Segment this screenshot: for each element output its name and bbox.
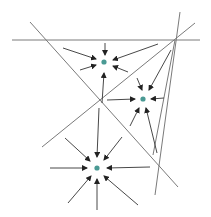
arrow-icon — [97, 108, 99, 157]
diagram-svg — [0, 0, 211, 217]
arrow-icon — [80, 65, 96, 70]
partition-line-1 — [30, 22, 178, 187]
arrow-icon — [68, 176, 91, 203]
arrow-icon — [107, 99, 135, 100]
arrows-group — [50, 43, 171, 210]
partition-line-3 — [155, 12, 180, 195]
point-top — [101, 59, 106, 64]
arrow-icon — [65, 138, 90, 161]
partition-lines — [12, 12, 200, 195]
arrow-icon — [130, 108, 139, 126]
arrow-icon — [104, 137, 122, 160]
point-bottom — [94, 165, 99, 170]
arrow-icon — [102, 73, 104, 103]
arrow-icon — [146, 108, 157, 153]
arrow-icon — [107, 167, 150, 168]
arrow-icon — [151, 98, 164, 99]
arrow-icon — [63, 48, 96, 59]
point-right — [140, 96, 145, 101]
points-group — [94, 59, 145, 170]
partition-line-4 — [153, 40, 175, 155]
diagram-canvas — [0, 0, 211, 217]
arrow-icon — [149, 50, 171, 90]
arrow-icon — [113, 44, 158, 60]
partition-line-2 — [42, 23, 195, 147]
arrow-icon — [104, 176, 138, 205]
arrow-icon — [113, 66, 128, 72]
arrow-icon — [137, 78, 142, 90]
